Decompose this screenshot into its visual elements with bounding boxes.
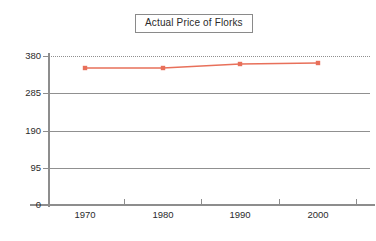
- y-tick-190: [43, 131, 49, 132]
- y-axis-label-95: 95: [7, 163, 41, 173]
- x-tick-2: [201, 199, 202, 205]
- x-tick-3: [279, 199, 280, 205]
- chart-title: Actual Price of Florks: [135, 14, 253, 33]
- x-tick-1: [124, 199, 125, 205]
- y-axis-label-285: 285: [7, 88, 41, 98]
- y-tick-95: [43, 168, 49, 169]
- y-axis-line: [48, 53, 50, 207]
- gridline-190: [48, 131, 370, 132]
- y-tick-0: [43, 205, 49, 206]
- x-axis-label-1980: 1980: [152, 210, 173, 220]
- gridline-285: [48, 93, 370, 94]
- plot-area: [48, 55, 370, 205]
- x-axis-label-2000: 2000: [307, 210, 328, 220]
- gridline-95: [48, 168, 370, 169]
- gridline-380: [48, 56, 370, 57]
- y-axis-labels: 380 285 190 95 0: [0, 0, 41, 241]
- y-tick-380: [43, 56, 49, 57]
- x-tick-4: [356, 199, 357, 205]
- y-tick-285: [43, 93, 49, 94]
- x-axis-line: [30, 204, 375, 206]
- x-axis-label-1970: 1970: [74, 210, 95, 220]
- x-axis-label-1990: 1990: [229, 210, 250, 220]
- y-axis-label-190: 190: [7, 126, 41, 136]
- chart-container: Actual Price of Florks 380 285 190 95 0 …: [0, 0, 376, 241]
- y-axis-label-0: 0: [7, 200, 41, 210]
- y-axis-label-380: 380: [7, 51, 41, 61]
